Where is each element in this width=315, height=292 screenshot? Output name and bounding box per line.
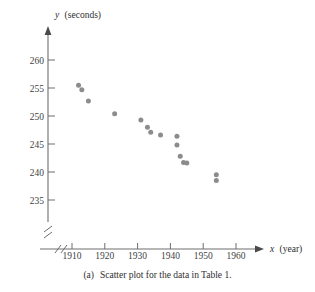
x-axis-title: x (year) <box>269 244 302 255</box>
x-tick-label-1920: 1920 <box>95 251 114 261</box>
x-tick-label-1930: 1930 <box>128 251 147 261</box>
scatter-plot-figure: 260 255 250 245 240 235 1910 1920 1930 1… <box>0 0 315 292</box>
data-point <box>138 117 143 122</box>
y-tick-label-260: 260 <box>30 56 45 66</box>
y-axis-ticks <box>48 60 55 200</box>
x-axis-arrow-icon <box>255 246 264 253</box>
x-tick-label-1910: 1910 <box>63 251 82 261</box>
x-axis-ticks <box>72 243 236 249</box>
y-tick-label-245: 245 <box>30 140 45 150</box>
data-point <box>178 154 183 159</box>
data-point <box>112 111 117 116</box>
x-tick-label-1960: 1960 <box>227 251 246 261</box>
data-point <box>148 130 153 135</box>
data-point <box>86 98 91 103</box>
data-point <box>174 134 179 139</box>
x-tick-label-1940: 1940 <box>161 251 180 261</box>
data-point <box>76 83 81 88</box>
scatter-plot-canvas: 260 255 250 245 240 235 1910 1920 1930 1… <box>0 0 315 292</box>
y-tick-label-235: 235 <box>30 196 45 206</box>
y-tick-label-255: 255 <box>30 84 45 94</box>
caption-text: Scatter plot for the data in Table 1. <box>100 270 232 280</box>
y-tick-label-240: 240 <box>30 168 45 178</box>
data-point <box>184 161 189 166</box>
data-point <box>145 125 150 130</box>
y-axis-arrow-icon <box>45 26 52 35</box>
y-tick-label-250: 250 <box>30 112 45 122</box>
x-axis-title-var: x <box>269 244 275 254</box>
y-axis-title: y (seconds) <box>54 10 101 21</box>
y-axis-break-icon <box>44 226 52 238</box>
data-point <box>79 87 84 92</box>
data-points-layer <box>76 83 219 183</box>
figure-caption: (a)Scatter plot for the data in Table 1. <box>0 270 315 280</box>
x-tick-label-1950: 1950 <box>194 251 213 261</box>
data-point <box>158 133 163 138</box>
x-axis-title-unit: (year) <box>280 244 303 255</box>
data-point <box>214 172 219 177</box>
y-axis-title-var: y <box>54 10 60 20</box>
y-axis-title-unit: (seconds) <box>65 10 101 21</box>
caption-index: (a) <box>83 270 94 280</box>
data-point <box>174 143 179 148</box>
data-point <box>214 178 219 183</box>
